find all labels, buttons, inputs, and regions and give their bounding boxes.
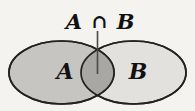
title-intersection-operator: ∩ (92, 10, 108, 32)
set-a-label: A (54, 58, 73, 84)
set-b-label: B (128, 58, 148, 84)
venn-diagram-svg: A ∩ B A B (0, 0, 195, 111)
title-set-b-label: B (116, 9, 135, 34)
title-set-a-label: A (64, 9, 82, 34)
venn-diagram: A ∩ B A B (0, 0, 195, 111)
